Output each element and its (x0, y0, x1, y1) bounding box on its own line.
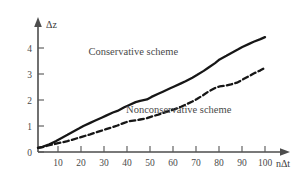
x-tick-label-40: 40 (122, 158, 132, 168)
x-tick-label-20: 20 (76, 158, 86, 168)
y-axis-title: Δz (46, 19, 57, 30)
x-tick-label-50: 50 (145, 158, 155, 168)
x-tick-label-90: 90 (237, 158, 247, 168)
x-tick-label-100: 100 (258, 158, 273, 168)
nonconservative-scheme-label: Nonconservative scheme (126, 104, 232, 115)
x-tick-label-80: 80 (214, 158, 224, 168)
x-tick-label-70: 70 (191, 158, 201, 168)
x-tick-label-10: 10 (53, 158, 63, 168)
x-tick-label-30: 30 (99, 158, 109, 168)
y-tick-label-3: 3 (27, 70, 32, 80)
y-tick-label-1: 1 (27, 122, 32, 132)
y-tick-label-4: 4 (27, 44, 32, 54)
y-tick-label-2: 2 (27, 96, 32, 106)
x-axis-title: nΔt (276, 158, 290, 169)
chart-figure: 0 1 2 3 4 Δz 10 20 30 40 50 60 70 80 90 … (0, 0, 306, 179)
conservative-scheme-label: Conservative scheme (89, 46, 179, 57)
x-tick-label-60: 60 (168, 158, 178, 168)
y-tick-label-0: 0 (27, 148, 32, 158)
